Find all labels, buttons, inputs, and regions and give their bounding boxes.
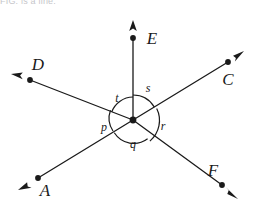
- angle-label-s: s: [146, 81, 151, 95]
- angle-arc-r: [150, 109, 160, 142]
- point-dot-c: [225, 59, 231, 65]
- angle-label-q: q: [130, 137, 136, 151]
- arrowhead-a: [18, 182, 32, 190]
- point-dot-vertex: [130, 117, 137, 124]
- arrowhead-e: [129, 20, 137, 31]
- ray-label-d: D: [31, 55, 45, 74]
- point-dot-f: [219, 182, 225, 188]
- arrowhead-c: [233, 51, 244, 62]
- ray-label-f: F: [207, 161, 219, 180]
- ray-label-a: A: [39, 181, 51, 200]
- angle-label-p: p: [100, 120, 107, 134]
- angle-label-r: r: [161, 119, 166, 133]
- geometry-canvas: E D C A F t s r q p: [0, 0, 258, 212]
- point-dot-d: [27, 77, 33, 83]
- line-segment-a-to-vertex: [38, 120, 133, 178]
- arrowhead-f: [226, 187, 238, 199]
- arrowhead-d: [11, 72, 23, 79]
- angle-arc-p: [109, 110, 113, 131]
- geometry-figure: FIG. is a line.: [0, 0, 258, 212]
- point-dot-e: [130, 35, 136, 41]
- angle-arc-s: [133, 95, 154, 107]
- ray-label-e: E: [146, 29, 158, 48]
- figure-caption: FIG. is a line.: [0, 0, 258, 5]
- ray-label-c: C: [222, 70, 234, 89]
